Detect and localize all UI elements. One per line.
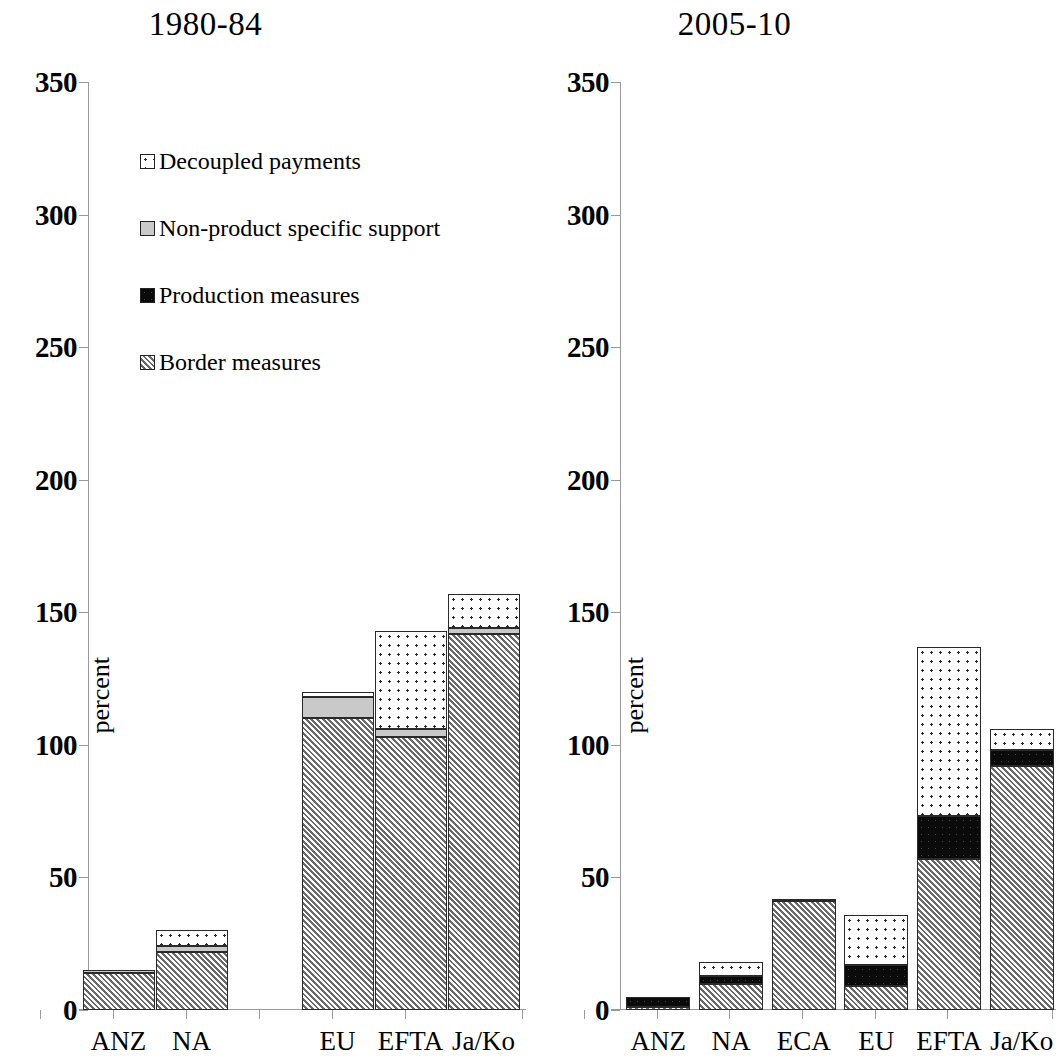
y-axis-tick-label: 200 [567, 463, 609, 496]
decoupled-payments-swatch-icon [140, 154, 155, 169]
y-axis-tick-label: 0 [595, 994, 609, 1027]
x-axis-tick-label: EU [858, 1026, 894, 1057]
plot-area-right: percent 050100150200250300350ANZNAECAEUE… [620, 82, 1056, 1010]
y-axis-tick-label: 350 [567, 66, 609, 99]
bar-segment-border-measures [917, 859, 981, 1010]
x-axis-tick-label: Ja/Ko [990, 1026, 1053, 1057]
y-axis-tick-label: 100 [35, 728, 77, 761]
bar-eca [772, 899, 836, 1010]
border-measures-swatch-icon [140, 355, 155, 370]
y-axis-tick [79, 347, 88, 348]
y-axis-line-right [620, 82, 621, 1010]
bar-efta [917, 647, 981, 1010]
chart-panel-1980-84: 1980-84 percent 050100150200250300350ANZ… [0, 0, 529, 1062]
panel-title-left: 1980-84 [0, 6, 529, 43]
bar-segment-border-measures [844, 986, 908, 1010]
bar-segment-decoupled-payments [917, 647, 981, 817]
x-axis-tick [584, 1010, 585, 1019]
y-axis-tick [79, 82, 88, 83]
bar-segment-non-product-specific-support [302, 697, 374, 718]
x-axis-tick-label: EFTA [378, 1026, 443, 1057]
bar-segment-decoupled-payments [844, 915, 908, 965]
y-axis-tick [79, 877, 88, 878]
bar-segment-non-product-specific-support [83, 970, 155, 973]
legend: Decoupled payments Non-product specific … [140, 128, 480, 396]
production-measures-swatch-icon [140, 288, 155, 303]
bar-anz [83, 970, 155, 1010]
bar-segment-border-measures [626, 1007, 690, 1010]
x-axis-tick [186, 1010, 187, 1019]
bar-segment-border-measures [83, 973, 155, 1010]
bar-segment-non-product-specific-support [448, 628, 520, 633]
bar-segment-production-measures [917, 816, 981, 858]
bar-segment-decoupled-payments [156, 930, 228, 946]
bar-na [699, 962, 763, 1010]
x-axis-tick [40, 1010, 41, 1019]
y-axis-tick [79, 1010, 88, 1011]
bar-segment-production-measures [990, 750, 1054, 766]
x-axis-tick [875, 1010, 876, 1019]
legend-item-label: Decoupled payments [159, 148, 361, 175]
x-axis-tick-label: ANZ [91, 1026, 147, 1057]
y-axis-tick-label: 100 [567, 728, 609, 761]
y-axis-tick-label: 150 [567, 596, 609, 629]
y-axis-line-left [88, 82, 89, 1010]
legend-item: Decoupled payments [140, 128, 480, 195]
y-axis-tick-label: 250 [567, 331, 609, 364]
bar-efta [375, 631, 447, 1010]
y-axis-tick [611, 745, 620, 746]
bar-eu [844, 915, 908, 1010]
x-axis-tick [522, 1010, 523, 1019]
y-axis-tick [611, 480, 620, 481]
bar-ja-ko [990, 729, 1054, 1010]
y-axis-tick-label: 50 [49, 861, 77, 894]
y-axis-tick [611, 82, 620, 83]
bar-segment-decoupled-payments [375, 631, 447, 729]
legend-item-label: Border measures [159, 349, 321, 376]
bar-segment-border-measures [375, 737, 447, 1010]
legend-item: Non-product specific support [140, 195, 480, 262]
y-axis-tick-label: 300 [567, 198, 609, 231]
y-axis-tick-label: 150 [35, 596, 77, 629]
x-axis-tick-label: Ja/Ko [452, 1026, 515, 1057]
x-axis-tick [113, 1010, 114, 1019]
panel-title-right: 2005-10 [530, 6, 1059, 43]
bar-segment-decoupled-payments [448, 594, 520, 628]
bar-segment-border-measures [156, 952, 228, 1010]
bar-segment-non-product-specific-support [772, 899, 836, 902]
y-axis-tick [79, 745, 88, 746]
non-product-specific-support-swatch-icon [140, 221, 155, 236]
bar-segment-decoupled-payments [990, 729, 1054, 750]
x-axis-tick-label: EFTA [916, 1026, 981, 1057]
y-axis-title-right: percent [620, 657, 650, 734]
y-axis-tick-label: 50 [581, 861, 609, 894]
x-axis-tick [657, 1010, 658, 1019]
bar-segment-non-product-specific-support [375, 729, 447, 737]
y-axis-tick-label: 200 [35, 463, 77, 496]
x-axis-tick [259, 1010, 260, 1019]
y-axis-tick [611, 347, 620, 348]
bar-segment-border-measures [699, 984, 763, 1011]
y-axis-tick-label: 0 [63, 994, 77, 1027]
y-axis-tick [611, 215, 620, 216]
x-axis-tick [332, 1010, 333, 1019]
bar-ja-ko [448, 594, 520, 1010]
bar-eu [302, 692, 374, 1010]
bar-segment-border-measures [772, 901, 836, 1010]
bar-segment-production-measures [844, 965, 908, 986]
x-axis-tick [947, 1010, 948, 1019]
y-axis-title-left: percent [86, 657, 116, 734]
legend-item: Production measures [140, 262, 480, 329]
bar-segment-border-measures [448, 634, 520, 1011]
legend-item-label: Production measures [159, 282, 360, 309]
y-axis-tick-label: 300 [35, 198, 77, 231]
chart-panel-2005-10: 2005-10 percent 050100150200250300350ANZ… [530, 0, 1059, 1062]
bar-segment-border-measures [990, 766, 1054, 1010]
bar-anz [626, 997, 690, 1010]
y-axis-tick-label: 350 [35, 66, 77, 99]
y-axis-tick [611, 1010, 620, 1011]
bar-segment-production-measures [699, 976, 763, 984]
x-axis-tick-label: EU [320, 1026, 356, 1057]
legend-item-label: Non-product specific support [159, 215, 440, 242]
y-axis-tick [611, 612, 620, 613]
